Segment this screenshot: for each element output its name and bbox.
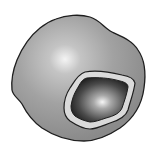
cell-svg [0, 0, 152, 153]
cell-diagram [0, 0, 152, 153]
